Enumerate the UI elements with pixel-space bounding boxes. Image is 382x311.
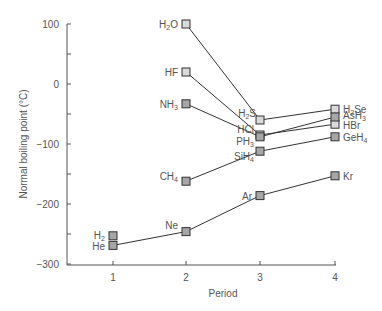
data-marker-nh3: [182, 100, 190, 108]
x-tick-label: 3: [257, 272, 263, 283]
point-label-geh4: GeH4: [343, 132, 368, 144]
series-line: [113, 176, 335, 246]
point-label-hcl: HCl: [237, 124, 254, 135]
data-marker-geh4: [331, 133, 339, 141]
data-marker-h2: [109, 232, 117, 240]
data-marker-ph3: [256, 133, 264, 141]
data-marker-hf: [182, 68, 190, 76]
data-marker-ar: [256, 192, 264, 200]
axes: 1000−100−200−3001234: [36, 19, 338, 283]
data-marker-sih4: [256, 147, 264, 155]
y-tick-label: −100: [36, 139, 59, 150]
x-tick-label: 4: [332, 272, 338, 283]
y-tick-label: −300: [36, 259, 59, 270]
series-lines: [113, 24, 335, 245]
data-marker-h2o: [182, 20, 190, 28]
data-marker-ch4: [182, 177, 190, 185]
point-label-ne: Ne: [165, 220, 178, 231]
x-tick-label: 1: [110, 272, 116, 283]
data-markers: [109, 20, 339, 249]
data-marker-h2se: [331, 105, 339, 113]
x-tick-label: 2: [183, 272, 189, 283]
data-marker-ash3: [331, 113, 339, 121]
point-label-ch4: CH4: [160, 171, 178, 183]
point-label-h2: H2: [94, 230, 105, 242]
point-label-h2s: H2S: [238, 108, 256, 120]
x-axis-title: Period: [209, 288, 238, 299]
y-axis-title: Normal boiling point (°C): [18, 89, 29, 198]
point-label-he: He: [92, 241, 105, 252]
point-label-h2o: H2O: [159, 19, 178, 31]
data-marker-kr: [331, 172, 339, 180]
y-tick-label: 0: [53, 79, 59, 90]
data-marker-he: [109, 241, 117, 249]
series-line: [186, 137, 335, 181]
point-label-ph3: PH3: [236, 136, 254, 148]
boiling-point-chart: 1000−100−200−3001234 H2OH2SH2SeHFHClHBrN…: [0, 0, 382, 311]
point-label-nh3: NH3: [160, 99, 178, 111]
series-line: [186, 72, 335, 135]
point-label-hf: HF: [165, 67, 178, 78]
point-label-kr: Kr: [343, 171, 354, 182]
point-labels: H2OH2SH2SeHFHClHBrNH3PH3AsH3CH4SiH4GeH4H…: [92, 19, 367, 252]
y-tick-label: 100: [42, 19, 59, 30]
point-label-sih4: SiH4: [234, 151, 254, 163]
point-label-hbr: HBr: [343, 120, 361, 131]
series-line: [186, 24, 335, 120]
point-label-ar: Ar: [242, 191, 253, 202]
data-marker-h2s: [256, 116, 264, 124]
data-marker-ne: [182, 228, 190, 236]
y-tick-label: −200: [36, 199, 59, 210]
